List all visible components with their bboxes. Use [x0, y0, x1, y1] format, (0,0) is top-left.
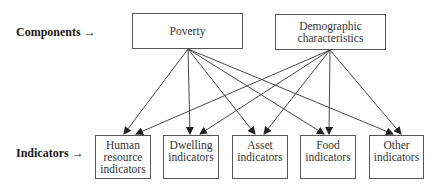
edge-poverty-other — [188, 49, 393, 134]
box-text-line: indicators — [100, 163, 145, 175]
edge-demographic-asset — [264, 50, 330, 134]
box-text-line: resource — [100, 151, 145, 163]
box-text-line: indicators — [374, 151, 419, 163]
indicator-box-food: Food indicators — [300, 135, 356, 179]
indicator-box-dwelling: Dwelling indicators — [163, 135, 219, 179]
indicator-box-other: Other indicators — [369, 135, 424, 179]
edge-demographic-other — [330, 50, 401, 134]
box-text-line: Dwelling — [168, 139, 213, 151]
box-text-line: indicators — [237, 151, 282, 163]
edge-poverty-asset — [188, 49, 255, 134]
edge-demographic-human — [136, 50, 330, 134]
box-text-line: indicators — [168, 151, 213, 163]
box-text-line: Demographic — [298, 20, 364, 32]
box-text-line: Other — [374, 139, 419, 151]
component-box-demographic: Demographic characteristics — [275, 14, 386, 50]
indicators-row-label: Indicators → — [16, 146, 84, 161]
box-text-line: Human — [100, 139, 145, 151]
indicator-box-human: Human resource indicators — [95, 135, 151, 179]
box-text-line: Food — [305, 139, 350, 151]
components-row-label: Components → — [16, 25, 96, 40]
edge-poverty-dwelling — [188, 49, 190, 134]
edge-demographic-dwelling — [200, 50, 330, 134]
box-text-line: indicators — [305, 151, 350, 163]
diagram-canvas: Components → Indicators → Poverty Demogr… — [0, 0, 442, 193]
indicator-box-asset: Asset indicators — [232, 135, 288, 179]
box-text-line: Asset — [237, 139, 282, 151]
box-text-line: characteristics — [298, 32, 364, 44]
edge-demographic-food — [329, 50, 330, 134]
component-box-poverty: Poverty — [132, 13, 243, 49]
box-text-line: Poverty — [170, 25, 206, 37]
edge-poverty-human — [124, 49, 188, 134]
